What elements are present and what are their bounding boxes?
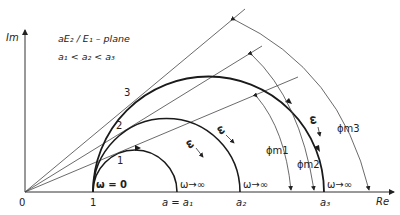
curve-3-omega-label: ω [308,115,319,125]
tangent-line-1 [25,77,298,192]
phi-m3-label: ϕm3 [337,124,360,134]
curve-2-label: 2 [116,121,122,131]
phi-m1-label: ϕm1 [266,146,289,156]
condition-label: a₁ < a₂ < a₃ [58,52,115,62]
curve-2-omega-inf: ω→∞ [243,180,268,190]
origin-label: 0 [19,198,25,208]
x-axis-label: Re [376,197,389,207]
curve-1-end-label: a = a₁ [162,198,193,208]
nyquist-diagram: Im Re 0 1 aE₂ / E₁ – plane a₁ < a₂ < a₃ … [0,0,400,215]
y-axis-label: Im [6,33,19,43]
plane-title: aE₂ / E₁ – plane [58,34,130,44]
curve-3-label: 3 [124,88,130,98]
curve-3-end-label: a₃ [320,198,330,208]
curve-1-omega-inf: ω→∞ [180,180,205,190]
curve-2-end-label: a₂ [236,198,246,208]
phi-m1-arc [257,97,291,190]
tangent-line-2 [25,46,262,192]
phi-m2-label: ϕm2 [297,160,320,170]
unit-label: 1 [90,198,96,208]
curve-1-label: 1 [117,156,123,166]
omega-zero-label: ω = 0 [96,180,127,190]
curve-3-omega-inf: ω→∞ [327,180,352,190]
